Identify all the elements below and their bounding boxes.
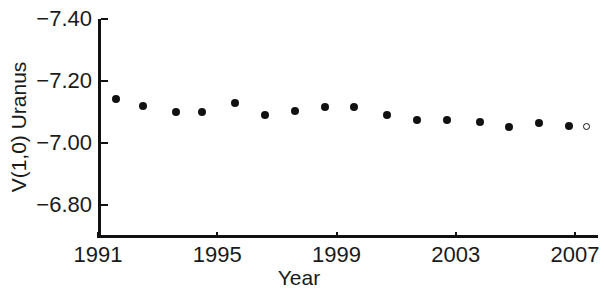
- data-point: [565, 122, 573, 130]
- data-point: [350, 103, 358, 111]
- x-tick-label: 2003: [416, 243, 496, 267]
- data-point: [505, 123, 513, 131]
- data-point: [231, 99, 239, 107]
- data-point: [476, 118, 484, 126]
- x-tick-mark: [216, 232, 218, 238]
- data-point-open: [583, 123, 590, 130]
- data-point: [321, 103, 329, 111]
- x-tick-label: 1991: [58, 243, 138, 267]
- data-point: [383, 111, 391, 119]
- x-tick-label: 1995: [177, 243, 257, 267]
- x-tick-mark: [574, 232, 576, 238]
- x-tick-mark: [97, 232, 99, 238]
- data-point: [443, 116, 451, 124]
- y-tick-mark: [101, 18, 108, 20]
- x-tick-label: 1999: [297, 243, 377, 267]
- y-tick-mark: [101, 204, 108, 206]
- data-point: [198, 108, 206, 116]
- y-tick-label: −7.00: [0, 132, 92, 154]
- data-point: [139, 102, 147, 110]
- data-point: [172, 108, 180, 116]
- data-point: [535, 119, 543, 127]
- x-tick-mark: [336, 232, 338, 238]
- y-tick-mark: [101, 142, 108, 144]
- y-tick-mark: [101, 80, 108, 82]
- data-point: [413, 116, 421, 124]
- data-point: [261, 111, 269, 119]
- data-point: [291, 107, 299, 115]
- x-axis-spine: [98, 235, 598, 238]
- x-tick-label: 2007: [535, 243, 604, 267]
- y-tick-label: −7.20: [0, 70, 92, 92]
- data-point: [112, 95, 120, 103]
- y-tick-label: −6.80: [0, 194, 92, 216]
- y-tick-label: −7.40: [0, 8, 92, 30]
- x-tick-mark: [455, 232, 457, 238]
